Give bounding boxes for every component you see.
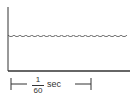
fraction-numerator: 1 [31,76,45,84]
time-unit-label: sec [47,79,61,89]
ripple-diagram [0,0,137,102]
period-fraction: 1 60 [31,76,45,95]
ripple-waveform [8,35,127,37]
fraction-denominator: 60 [31,87,45,95]
